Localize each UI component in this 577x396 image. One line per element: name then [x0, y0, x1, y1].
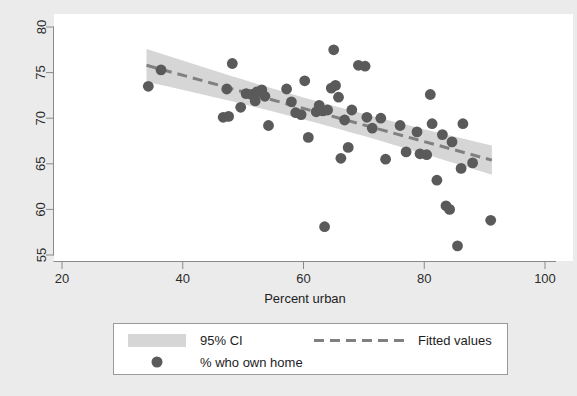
scatter-plot-svg: 556065707580 20406080100 Percent urban 9… — [0, 0, 577, 396]
scatter-point — [447, 137, 458, 148]
scatter-point — [444, 204, 455, 215]
scatter-point — [281, 84, 292, 95]
x-tick-label: 80 — [417, 271, 431, 286]
scatter-point — [336, 153, 347, 164]
scatter-point — [485, 215, 496, 226]
scatter-point — [330, 80, 341, 91]
scatter-point — [395, 120, 406, 131]
y-tick-label: 80 — [34, 20, 49, 34]
legend-label-fitted-values: Fitted values — [418, 333, 492, 348]
scatter-point — [437, 129, 448, 140]
y-tick-label: 70 — [34, 111, 49, 125]
scatter-point — [425, 89, 436, 100]
scatter-point — [401, 147, 412, 158]
scatter-point — [360, 61, 371, 72]
scatter-point — [328, 44, 339, 55]
y-tick-label: 55 — [34, 248, 49, 262]
scatter-point — [319, 221, 330, 232]
scatter-point — [221, 84, 232, 95]
chart-legend: 95% CI Fitted values % who own home — [114, 324, 508, 375]
scatter-point — [467, 158, 478, 169]
scatter-point — [456, 163, 467, 174]
x-tick-label: 60 — [296, 271, 310, 286]
y-tick-label: 60 — [34, 202, 49, 216]
legend-label-own-home: % who own home — [200, 355, 303, 370]
scatter-point — [296, 109, 307, 120]
scatter-point — [458, 118, 469, 129]
scatter-point — [227, 58, 238, 69]
scatter-point — [452, 241, 463, 252]
scatter-point — [260, 91, 271, 102]
scatter-point — [143, 81, 154, 92]
scatter-point — [380, 154, 391, 165]
scatter-point — [367, 123, 378, 134]
legend-swatch-ci — [128, 334, 186, 347]
x-tick-label: 40 — [176, 271, 190, 286]
chart-figure: 556065707580 20406080100 Percent urban 9… — [0, 0, 577, 396]
scatter-point — [343, 142, 354, 153]
scatter-point — [346, 105, 357, 116]
legend-box — [114, 324, 508, 375]
scatter-point — [375, 113, 386, 124]
x-axis-title: Percent urban — [264, 291, 346, 306]
legend-swatch-own-home — [152, 357, 163, 368]
scatter-point — [333, 92, 344, 103]
scatter-point — [250, 96, 261, 107]
x-tick-label: 20 — [55, 271, 69, 286]
scatter-point — [322, 105, 333, 116]
scatter-point — [299, 75, 310, 86]
scatter-point — [286, 96, 297, 107]
y-tick-label: 65 — [34, 157, 49, 171]
x-tick-label: 100 — [534, 271, 556, 286]
scatter-point — [263, 120, 274, 131]
legend-label-ci: 95% CI — [200, 333, 243, 348]
scatter-point — [339, 115, 350, 126]
scatter-point — [156, 65, 167, 76]
scatter-point — [421, 149, 432, 160]
y-tick-label: 75 — [34, 65, 49, 79]
scatter-point — [362, 112, 373, 123]
scatter-point — [303, 132, 314, 143]
scatter-point — [223, 111, 234, 122]
scatter-point — [427, 118, 438, 129]
scatter-point — [412, 126, 423, 137]
scatter-point — [432, 175, 443, 186]
scatter-point — [235, 102, 246, 113]
